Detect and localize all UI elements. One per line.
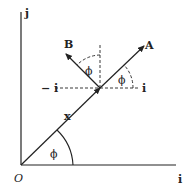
angle-origin-label: ϕ xyxy=(50,148,58,161)
angle-arc-origin xyxy=(57,130,73,165)
vector-diagram: j i O x A B ϕ ϕ ϕ i − i xyxy=(0,0,189,186)
vector-B-label: B xyxy=(64,38,73,51)
local-i-label: i xyxy=(142,82,146,95)
origin-label: O xyxy=(14,172,23,185)
angle-B-label: ϕ xyxy=(85,65,93,78)
local-neg-i-label: − i xyxy=(41,82,58,95)
vector-x-line xyxy=(21,88,100,165)
vector-A-label: A xyxy=(144,39,154,52)
i-axis-label: i xyxy=(178,173,182,186)
vector-B-line xyxy=(66,54,100,88)
angle-A-label: ϕ xyxy=(118,74,126,87)
j-axis-label: j xyxy=(24,7,29,20)
angle-arc-B xyxy=(77,55,100,65)
vector-x-label: x xyxy=(64,110,71,123)
